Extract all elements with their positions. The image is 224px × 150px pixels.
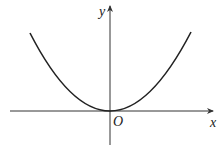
parabola-diagram: y O x (0, 0, 224, 150)
origin-label: O (113, 114, 123, 129)
x-axis-label: x (209, 115, 217, 130)
y-axis-label: y (97, 4, 106, 19)
